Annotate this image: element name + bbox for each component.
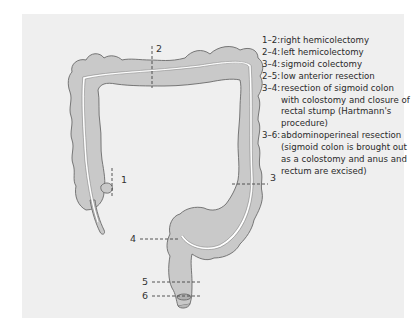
legend-key: 3–6: bbox=[262, 130, 281, 178]
marker-5: 5 bbox=[142, 276, 148, 287]
marker-6: 6 bbox=[142, 290, 148, 301]
legend-item: 2–4:left hemicolectomy bbox=[262, 47, 412, 59]
marker-1: 1 bbox=[121, 174, 127, 185]
legend-key: 2–5: bbox=[262, 71, 281, 83]
legend-key: 3–4: bbox=[262, 59, 281, 71]
colon-illustration bbox=[68, 47, 263, 309]
marker-4: 4 bbox=[130, 233, 136, 244]
legend-item: 1–2:right hemicolectomy bbox=[262, 35, 412, 47]
legend-item: 3–4:sigmoid colectomy bbox=[262, 59, 412, 71]
marker-2: 2 bbox=[156, 43, 162, 54]
legend-key: 1–2: bbox=[262, 35, 280, 47]
legend-text: low anterior resection bbox=[281, 71, 412, 83]
legend-item: 3–6:abdominoperineal resection (sigmoid … bbox=[262, 130, 412, 178]
procedure-legend: 1–2:right hemicolectomy 2–4:left hemicol… bbox=[262, 35, 412, 178]
legend-item: 3–4:resection of sigmoid colon with colo… bbox=[262, 83, 412, 131]
legend-text: abdominoperineal resection (sigmoid colo… bbox=[281, 130, 412, 178]
legend-key: 2–4: bbox=[262, 47, 281, 59]
legend-text: right hemicolectomy bbox=[280, 35, 412, 47]
legend-key: 3–4: bbox=[262, 83, 281, 131]
legend-text: sigmoid colectomy bbox=[281, 59, 412, 71]
legend-item: 2–5:low anterior resection bbox=[262, 71, 412, 83]
legend-text: left hemicolectomy bbox=[281, 47, 412, 59]
legend-text: resection of sigmoid colon with colostom… bbox=[281, 83, 412, 131]
